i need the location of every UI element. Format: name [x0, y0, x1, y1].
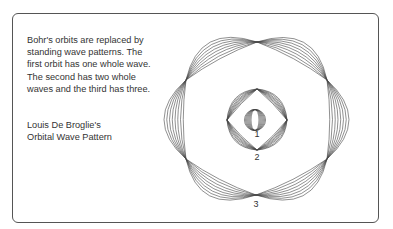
- orbit-3-wave: [164, 37, 349, 200]
- orbit-label-1: 1: [254, 129, 259, 139]
- orbit-2-wave: [227, 89, 287, 150]
- orbit-label-3: 3: [253, 199, 258, 209]
- orbital-wave-diagram: 1 2 3: [0, 0, 393, 229]
- orbit-1-wave: [244, 110, 265, 131]
- orbit-label-2: 2: [254, 152, 259, 162]
